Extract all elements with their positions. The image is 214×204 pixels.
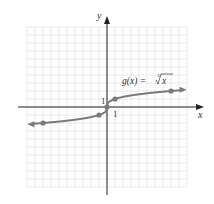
radicand: x (161, 76, 167, 86)
curve-arrow-left-icon (27, 121, 34, 127)
svg-text:g(x) =: g(x) = (122, 76, 146, 87)
data-point (40, 120, 45, 125)
data-point (104, 104, 109, 109)
radical-index: 3 (157, 73, 160, 78)
y-tick-label: 1 (101, 96, 106, 106)
x-axis-label: x (197, 109, 203, 120)
data-point (168, 88, 173, 93)
cube-root-graph: x y 1 1 g(x) = 3 x (0, 0, 214, 204)
x-tick-label: 1 (113, 109, 118, 119)
data-point (112, 96, 117, 101)
y-axis-label: y (96, 10, 102, 21)
data-point (96, 112, 101, 117)
function-name: g(x) = (122, 76, 146, 87)
curve-arrow-right-icon (180, 87, 187, 93)
y-axis-arrow-icon (104, 16, 110, 24)
